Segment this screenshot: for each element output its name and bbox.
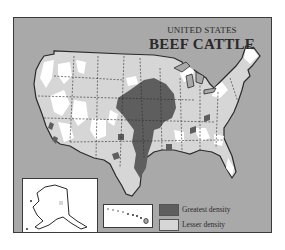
legend: Greatest density Lesser density (Calves … — [159, 203, 271, 233]
title-subject: BEEF CATTLE — [134, 36, 270, 53]
hawaii-map — [104, 205, 151, 226]
inset-alaska — [22, 178, 98, 233]
legend-label: Lesser density — [182, 220, 225, 229]
swatch-lesser-density — [159, 219, 179, 231]
legend-label: Greatest density — [182, 205, 231, 214]
inset-hawaii — [103, 204, 153, 228]
title-country: UNITED STATES — [134, 25, 270, 35]
alaska-map — [23, 179, 96, 233]
swatch-greatest-density — [159, 204, 179, 216]
legend-item-greatest: Greatest density — [159, 203, 271, 216]
map-frame: UNITED STATES BEEF CATTLE Greatest densi… — [13, 17, 272, 233]
map-title: UNITED STATES BEEF CATTLE — [134, 25, 270, 53]
legend-item-lesser: Lesser density — [159, 218, 271, 231]
